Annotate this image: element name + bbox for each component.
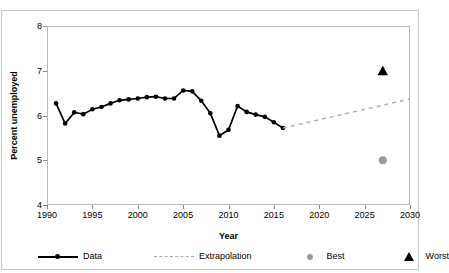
data-point [90,107,95,112]
data-point [54,101,59,106]
data-point [163,96,168,101]
top-margin-strip [0,0,421,9]
y-axis-title: Percent unemployed [8,26,20,205]
data-point [253,112,258,117]
x-tick-label-2030: 2030 [400,211,420,220]
data-point [181,88,186,93]
series-line-extrapolation [283,99,410,128]
x-tick-label-2000: 2000 [128,211,148,220]
x-tick-label-1990: 1990 [37,211,57,220]
x-tick-mark-2025 [365,205,366,209]
data-point [272,120,277,125]
plot-svg [47,26,410,205]
data-point [263,115,268,120]
dashed-line-icon [154,252,194,261]
data-point [145,95,150,100]
x-tick-label-2025: 2025 [355,211,375,220]
data-point [154,94,159,99]
y-tick-mark-8 [43,26,47,27]
legend-label-worst: Worst [426,252,449,261]
x-tick-mark-2015 [274,205,275,209]
x-axis-title: Year [47,232,410,241]
legend-item-worst: Worst [397,252,449,261]
legend-item-best: Best [298,252,345,261]
x-tick-mark-2000 [138,205,139,209]
y-tick-label-8: 8 [37,22,42,31]
data-point [199,98,204,103]
line-marker-icon [38,252,78,261]
data-point [217,133,222,138]
y-tick-label-6: 6 [37,111,42,120]
best-marker [379,156,387,164]
plot-area: 4567819901995200020052010201520202025203… [47,26,410,205]
data-point [135,96,140,101]
data-point [226,128,231,133]
x-tick-mark-2010 [229,205,230,209]
data-point [72,110,77,115]
data-point [63,121,68,126]
x-tick-label-2015: 2015 [264,211,284,220]
legend-label-best: Best [327,252,345,261]
x-tick-mark-1990 [47,205,48,209]
legend-label-extrapolation: Extrapolation [199,252,252,261]
x-tick-label-2005: 2005 [173,211,193,220]
y-tick-label-4: 4 [37,201,42,210]
y-axis-title-text: Percent unemployed [10,71,19,160]
worst-marker [378,66,388,76]
y-tick-mark-7 [43,71,47,72]
legend-item-data: Data [38,252,102,261]
legend-item-extrapolation: Extrapolation [154,252,252,261]
chart-legend: Data Extrapolation Best Worst [30,252,400,261]
data-point [235,104,240,109]
triangle-marker-icon [397,252,421,261]
y-tick-mark-5 [43,160,47,161]
circle-marker-icon [298,254,322,260]
data-point [244,110,249,115]
x-tick-mark-2005 [183,205,184,209]
data-point [208,111,213,116]
series-line-data [56,90,283,135]
x-tick-mark-2020 [319,205,320,209]
y-tick-mark-6 [43,116,47,117]
legend-label-data: Data [83,252,102,261]
data-point [81,112,86,117]
data-point [126,97,131,102]
x-tick-mark-1995 [92,205,93,209]
x-tick-mark-2030 [410,205,411,209]
data-point [172,96,177,101]
data-point [117,98,122,103]
x-tick-label-2010: 2010 [218,211,238,220]
y-tick-label-7: 7 [37,66,42,75]
data-point [99,105,104,110]
y-tick-label-5: 5 [37,156,42,165]
data-point [190,89,195,94]
data-point [108,101,113,106]
x-tick-label-1995: 1995 [82,211,102,220]
x-tick-label-2020: 2020 [309,211,329,220]
